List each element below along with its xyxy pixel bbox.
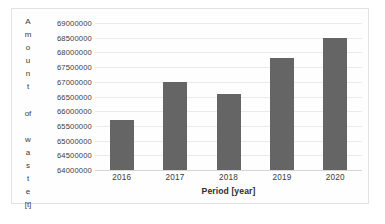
y-axis-title-char: o — [26, 41, 30, 54]
y-axis-title-char: a — [26, 146, 30, 159]
y-axis-title-char: of — [25, 107, 32, 120]
bar-slot — [95, 23, 148, 170]
bar-slot — [202, 23, 255, 170]
bar[interactable] — [270, 58, 294, 170]
y-axis-title: Amount of waste[t] — [20, 15, 36, 199]
bar[interactable] — [323, 38, 347, 170]
bar[interactable] — [163, 82, 187, 170]
y-axis-title-char: t — [27, 80, 29, 93]
bar-slot — [255, 23, 308, 170]
x-axis-tick-label: 2016 — [95, 173, 148, 186]
y-axis-tick-label: 65000000 — [38, 136, 92, 145]
plot-area — [95, 23, 362, 170]
y-axis-tick-label: 67500000 — [38, 63, 92, 72]
y-axis-title-char: A — [25, 15, 30, 28]
y-axis-title-char: e — [26, 185, 30, 198]
bar[interactable] — [110, 120, 134, 170]
y-axis-title-char: w — [25, 133, 31, 146]
bar[interactable] — [217, 94, 241, 170]
y-axis-title-char: s — [26, 159, 30, 172]
y-axis-tick-label: 64000000 — [38, 166, 92, 175]
x-axis-tick-labels: 20162017201820192020 — [95, 173, 362, 186]
x-axis-tick-label: 2018 — [202, 173, 255, 186]
y-axis-title-char — [27, 120, 29, 133]
y-axis-tick-label: 66500000 — [38, 92, 92, 101]
bar-chart-figure: Amount of waste[t] 690000006850000068000… — [11, 8, 369, 204]
y-axis-title-char — [27, 94, 29, 107]
x-axis-tick-label: 2020 — [309, 173, 362, 186]
y-axis-tick-labels: 6900000068500000680000006750000067000000… — [38, 19, 92, 162]
x-axis-tick-label: 2017 — [148, 173, 201, 186]
gridline — [95, 170, 362, 171]
bar-slot — [309, 23, 362, 170]
y-axis-tick-label: 64500000 — [38, 151, 92, 160]
y-axis-title-char: [t] — [25, 198, 32, 211]
y-axis-title-char: u — [26, 54, 30, 67]
y-axis-tick-label: 67000000 — [38, 77, 92, 86]
x-axis-title: Period [year] — [95, 186, 362, 196]
bar-slot — [148, 23, 201, 170]
x-axis-tick-label: 2019 — [255, 173, 308, 186]
y-axis-tick-label: 66000000 — [38, 107, 92, 116]
y-axis-tick-label: 69000000 — [38, 19, 92, 28]
y-axis-tick-label: 65500000 — [38, 121, 92, 130]
y-axis-tick-label: 68500000 — [38, 33, 92, 42]
y-axis-title-char: n — [26, 67, 30, 80]
y-axis-title-char: t — [27, 172, 29, 185]
y-axis-tick-label: 68000000 — [38, 48, 92, 57]
bars-layer — [95, 23, 362, 170]
y-axis-title-char: m — [25, 28, 32, 41]
